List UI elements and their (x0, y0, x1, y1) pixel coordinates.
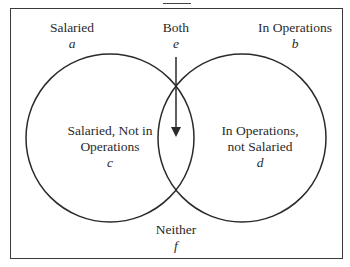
var-c: c (40, 155, 180, 171)
label-operations-only: In Operations, not Salaried d (190, 123, 330, 171)
label-salaried: Salaried a (32, 20, 112, 52)
operations-title: In Operations (240, 20, 350, 36)
label-both: Both e (146, 20, 206, 52)
operations-only-line1: In Operations, (190, 123, 330, 139)
var-b: b (240, 36, 350, 52)
salaried-only-line2: Operations (40, 139, 180, 155)
both-title: Both (146, 20, 206, 36)
label-operations: In Operations b (240, 20, 350, 52)
label-neither: Neither f (136, 222, 216, 254)
var-e: e (146, 36, 206, 52)
var-a: a (32, 36, 112, 52)
operations-only-line2: not Salaried (190, 139, 330, 155)
var-f: f (136, 238, 216, 254)
salaried-only-line1: Salaried, Not in (40, 123, 180, 139)
var-d: d (190, 155, 330, 171)
neither-title: Neither (136, 222, 216, 238)
label-salaried-only: Salaried, Not in Operations c (40, 123, 180, 171)
salaried-title: Salaried (32, 20, 112, 36)
